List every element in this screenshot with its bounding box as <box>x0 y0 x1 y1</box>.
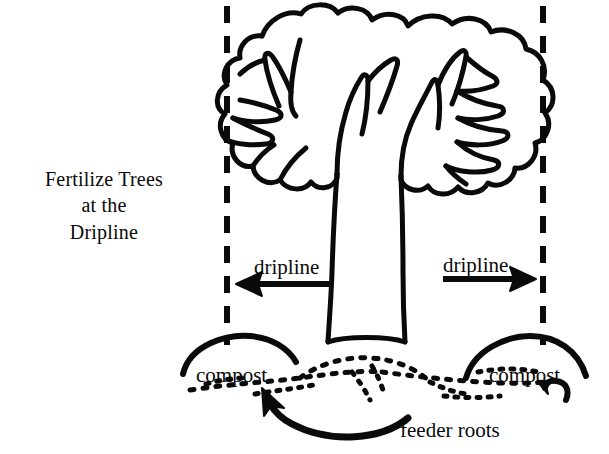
fertilize-trees-diagram: Fertilize Trees at the Dripline <box>0 0 609 454</box>
tree-icon <box>217 5 553 342</box>
curved-arrow-icon <box>262 388 408 437</box>
dripline-label-right: dripline <box>443 253 508 277</box>
feeder-roots-label: feeder roots <box>400 418 500 442</box>
dripline-label-left: dripline <box>254 255 319 279</box>
diagram-artwork: dripline dripline compost compost <box>0 0 609 454</box>
hooked-arrow-icon <box>538 380 568 400</box>
